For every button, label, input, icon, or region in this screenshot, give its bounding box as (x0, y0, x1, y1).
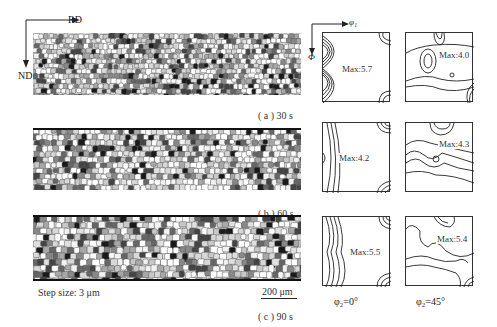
scale-bar-label: 200 μm (262, 286, 293, 297)
max-value: Max:5.7 (341, 64, 373, 74)
odf-60s-phi2-0: Max:4.2 (322, 122, 390, 192)
micrograph-90s (33, 215, 301, 281)
max-value: Max:4.2 (338, 153, 370, 163)
rd-label: RD (68, 14, 82, 25)
column-label-phi2-0: φ₂=0° (334, 296, 358, 307)
step-size-label: Step size: 3 μm (38, 287, 100, 298)
odf-90s-phi2-0: Max:5.5 (322, 216, 390, 286)
caption-90s: ( c ) 90 s (258, 311, 293, 322)
max-value: Max:5.4 (436, 234, 468, 244)
odf-30s-phi2-45: Max:4.0 (405, 32, 473, 102)
nd-label: ND (18, 70, 32, 81)
max-value: Max:5.5 (349, 247, 381, 257)
scale-bar (261, 298, 297, 299)
micrograph-60s (33, 128, 301, 190)
Phi-label: Φ (308, 52, 315, 62)
max-value: Max:4.3 (438, 139, 470, 149)
micrograph-30s (33, 33, 301, 95)
max-value: Max:4.0 (438, 50, 470, 60)
phi1-label: φ₁ (349, 17, 357, 27)
caption-30s: ( a ) 30 s (258, 110, 293, 121)
odf-90s-phi2-45: Max:5.4 (405, 216, 473, 286)
odf-30s-phi2-0: Max:5.7 (322, 32, 390, 102)
column-label-phi2-45: φ₂=45° (416, 296, 445, 307)
odf-60s-phi2-45: Max:4.3 (405, 122, 473, 192)
